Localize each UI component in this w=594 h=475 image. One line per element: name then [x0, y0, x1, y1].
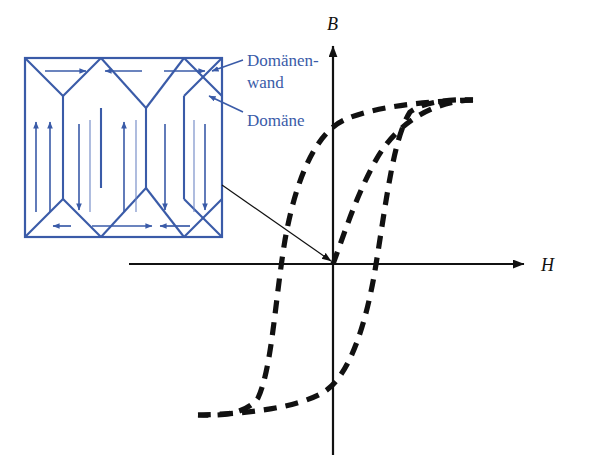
magnetic-domain-structure [25, 58, 222, 237]
chart-axes [129, 46, 524, 455]
pointer-line-to-origin [222, 185, 331, 261]
axis-label-b: B [327, 14, 338, 34]
leader-line-domain-wall [212, 60, 243, 71]
label-domain-wall-line2: wand [247, 73, 284, 92]
domain-leader-lines [209, 60, 243, 112]
label-domain: Domäne [247, 111, 305, 130]
label-domain-wall-line1: Domänen- [247, 51, 319, 70]
leader-line-domain [209, 96, 243, 112]
domain-wall-top-closure [25, 58, 222, 108]
domain-magnetization-arrows [36, 122, 205, 212]
curve-initial-magnetization [333, 100, 473, 264]
domain-wall-hairlines [90, 120, 194, 212]
hysteresis-curves [198, 100, 473, 415]
axis-label-h: H [540, 255, 555, 275]
hysteresis-figure: Domänen- wand Domäne B H [0, 0, 594, 475]
